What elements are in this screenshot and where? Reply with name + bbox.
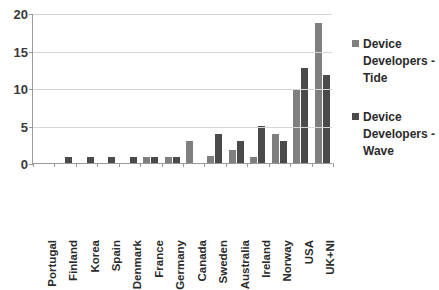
- bar: [151, 157, 158, 163]
- y-tick-label: 10: [0, 83, 28, 96]
- bar: [143, 157, 150, 163]
- bar: [173, 157, 180, 163]
- bar: [165, 157, 172, 163]
- y-tickmark: [29, 52, 33, 53]
- x-tick-label: Korea: [90, 240, 102, 273]
- bar: [130, 157, 137, 163]
- bar: [258, 126, 265, 163]
- x-tick-label: Portugal: [47, 240, 59, 287]
- y-tick-label: 20: [0, 8, 28, 21]
- y-tickmark: [29, 89, 33, 90]
- bar: [237, 141, 244, 163]
- y-tick-label: 5: [0, 120, 28, 133]
- x-tick-label: Germany: [175, 240, 187, 290]
- bar: [280, 141, 287, 163]
- bar: [108, 157, 115, 163]
- x-tick-label: Australia: [240, 240, 252, 289]
- bar: [87, 157, 94, 163]
- legend-swatch-icon: [352, 113, 359, 120]
- plot-area: [32, 14, 332, 164]
- x-tick-label: Canada: [197, 240, 209, 282]
- legend-label: Device Developers - Tide: [363, 36, 439, 87]
- gridline: [33, 52, 332, 53]
- bar: [207, 156, 214, 163]
- bar: [215, 134, 222, 163]
- y-tick-label: 0: [0, 158, 28, 171]
- legend-entry[interactable]: Device Developers - Tide: [352, 36, 439, 87]
- bar: [315, 23, 322, 163]
- y-axis: 05101520: [0, 14, 28, 164]
- gridline: [33, 127, 332, 128]
- y-tickmark: [29, 14, 33, 15]
- bar: [229, 150, 236, 164]
- gridline: [33, 89, 332, 90]
- x-tick-label: Ireland: [261, 240, 273, 278]
- gridline: [33, 14, 332, 15]
- x-tick-label: Sweden: [218, 240, 230, 283]
- y-tick-label: 15: [0, 45, 28, 58]
- x-tickmark: [333, 163, 334, 167]
- bar: [250, 157, 257, 163]
- chart-legend: Device Developers - TideDevice Developer…: [352, 36, 439, 182]
- bar: [186, 141, 193, 163]
- bar: [65, 157, 72, 163]
- x-tick-label: USA: [304, 240, 316, 264]
- x-tick-label: UK+NI: [325, 240, 337, 275]
- bar: [272, 134, 279, 163]
- x-tick-label: Denmark: [132, 240, 144, 289]
- legend-swatch-icon: [352, 40, 359, 47]
- x-tick-label: Norway: [282, 240, 294, 282]
- x-axis: PortugalFinlandKoreaSpainDenmarkFranceGe…: [32, 166, 332, 243]
- legend-entry[interactable]: Device Developers - Wave: [352, 109, 439, 160]
- legend-label: Device Developers - Wave: [363, 109, 439, 160]
- x-tick-label: Finland: [68, 240, 80, 281]
- x-tick-label: Spain: [111, 240, 123, 271]
- bar: [301, 68, 308, 163]
- x-tick-label: France: [154, 240, 166, 278]
- y-tickmark: [29, 127, 33, 128]
